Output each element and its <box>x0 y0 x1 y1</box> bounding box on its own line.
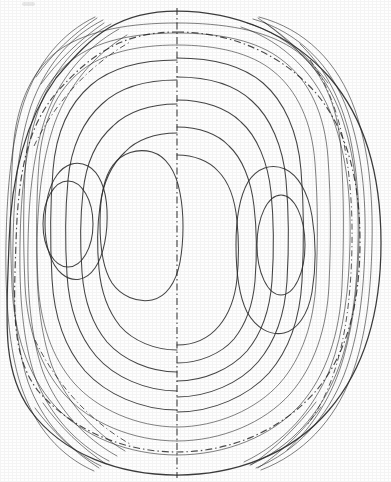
contour-left-9 <box>11 23 177 455</box>
contour-left-2 <box>100 151 183 301</box>
contour-right-3 <box>177 127 256 363</box>
contour-right-core <box>257 195 305 295</box>
contour-right-9 <box>177 23 343 455</box>
contour-right-8 <box>177 33 330 441</box>
contour-right-5 <box>177 77 288 397</box>
dashdot-secondary-arcs <box>34 42 352 444</box>
pinch-top-left-1 <box>36 18 97 77</box>
figure-root: Streamline contour plot in a circular do… <box>0 0 391 482</box>
outer-boundary-path <box>7 11 381 475</box>
right-cell-contours <box>177 23 343 455</box>
outer-boundary-group <box>7 11 381 475</box>
right-edge-bunched-contours <box>241 17 372 470</box>
left-cell-contours <box>11 23 183 455</box>
contour-right-2 <box>177 155 239 345</box>
contour-right-6 <box>177 58 303 412</box>
contour-left-4 <box>81 104 177 372</box>
contour-left-6 <box>51 60 177 410</box>
contour-right-7 <box>177 45 317 427</box>
contour-left-5 <box>66 80 177 391</box>
bunched-right-5 <box>287 44 359 450</box>
contour-plot <box>0 0 391 482</box>
contour-left-3 <box>98 133 177 350</box>
